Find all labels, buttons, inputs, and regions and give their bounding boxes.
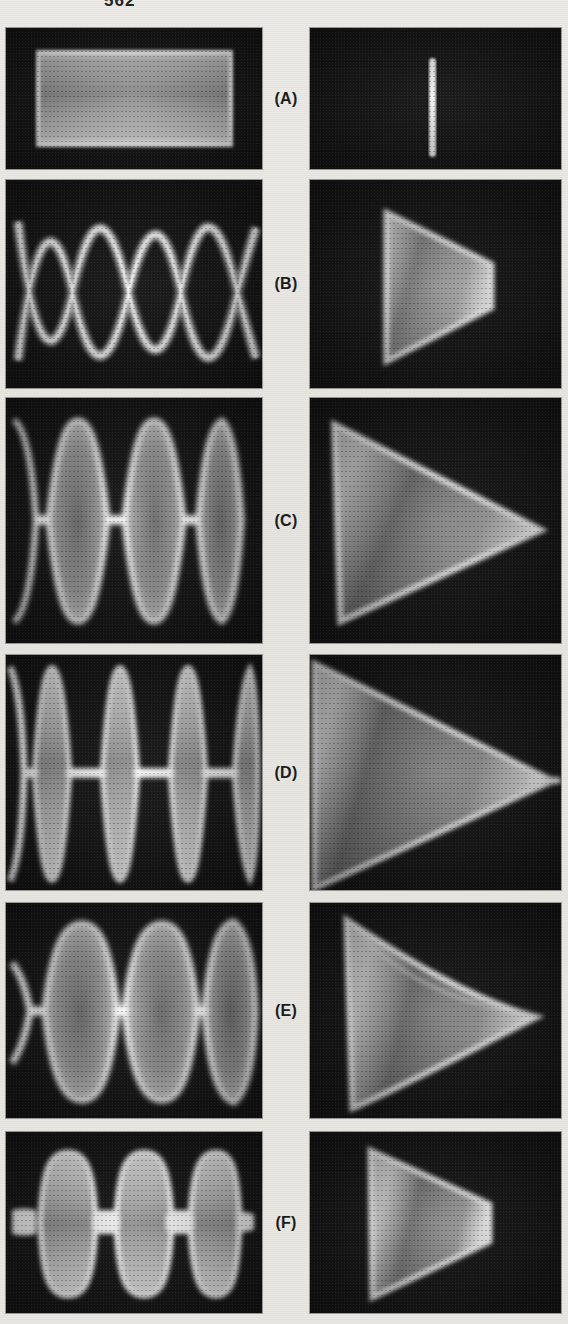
panel-d-right — [310, 655, 561, 890]
waveform-rounded-eye — [6, 903, 262, 1118]
waveform-rectangle — [6, 28, 262, 169]
row-label-e: (E) — [262, 903, 310, 1118]
waveform-sinusoidal-eye — [6, 180, 262, 388]
panel-b-left — [6, 180, 262, 388]
row-label-c: (C) — [262, 398, 310, 643]
waveform-flat-top-eye — [6, 1132, 262, 1313]
panel-a-left — [6, 28, 262, 169]
vector-blunt-triangle — [310, 1132, 561, 1313]
vector-triangle-with-tail — [310, 655, 561, 890]
figure-row-d: (D) — [0, 655, 568, 890]
vector-triangle — [310, 398, 561, 643]
panel-c-left — [6, 398, 262, 643]
figure-row-f: (F) — [0, 1132, 568, 1313]
waveform-narrow-lens-eye — [6, 655, 262, 890]
panel-e-left — [6, 903, 262, 1118]
row-label-a: (A) — [262, 28, 310, 169]
panel-f-right — [310, 1132, 561, 1313]
row-label-d: (D) — [262, 655, 310, 890]
figure-plate: (A) — [0, 0, 568, 1324]
panel-a-right — [310, 28, 561, 169]
panel-c-right — [310, 398, 561, 643]
panel-f-left — [6, 1132, 262, 1313]
row-label-b: (B) — [262, 180, 310, 388]
vector-curved-triangle — [310, 903, 561, 1118]
figure-row-a: (A) — [0, 28, 568, 169]
row-label-f: (F) — [262, 1132, 310, 1313]
waveform-lens-eye — [6, 398, 262, 643]
panel-b-right — [310, 180, 561, 388]
panel-d-left — [6, 655, 262, 890]
figure-row-b: (B) — [0, 180, 568, 388]
figure-row-e: (E) — [0, 903, 568, 1118]
panel-e-right — [310, 903, 561, 1118]
figure-row-c: (C) — [0, 398, 568, 643]
vector-vertical-bar — [310, 28, 561, 169]
vector-truncated-triangle — [310, 180, 561, 388]
